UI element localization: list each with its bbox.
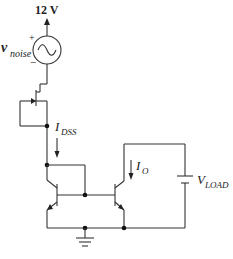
supply-label: 12 V [35,3,59,17]
supply-arrow-icon [44,18,50,36]
io-label-subscript: O [142,166,149,176]
q2-npn-transistor-icon [115,144,124,228]
vload-label-subscript: LOAD [204,180,229,190]
idss-label-subscript: DSS [60,127,77,137]
battery-icon [177,176,193,183]
node-dot [83,193,88,198]
idss-arrow-icon [55,138,60,158]
node-dot [45,124,50,129]
noise-source-icon [33,36,61,64]
io-arrow-icon [129,160,134,180]
ground-icon [76,228,94,246]
circuit-diagram: 12 V + − v noise I DSS [0,0,233,259]
io-label: I [135,158,141,173]
node-dot [122,226,127,231]
jfet-icon [20,90,47,106]
q1-npn-transistor-icon [47,165,57,228]
idss-label: I [54,119,60,134]
noise-label: v [1,40,8,55]
noise-plus-sign: + [29,32,35,43]
noise-label-subscript: noise [10,48,32,59]
